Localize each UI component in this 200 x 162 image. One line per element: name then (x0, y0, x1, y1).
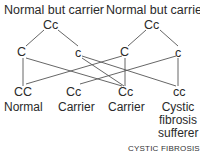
parent-1-allele-dominant: C (17, 46, 26, 59)
parent-1-allele-recessive: c (75, 47, 81, 60)
child-4-genotype: cc (173, 86, 186, 99)
child-4-label-line-2: fibrosis (158, 114, 198, 126)
parent-2-allele-recessive: c (175, 47, 181, 60)
child-4-label-line-3: sufferer (158, 127, 198, 139)
child-3-genotype: Cc (118, 86, 133, 99)
child-2-label: Carrier (58, 101, 95, 113)
child-1-genotype: CC (14, 86, 32, 99)
child-4-label-line-1: Cystic (158, 101, 198, 113)
parent-1-genotype: Cc (43, 19, 58, 32)
child-1-label: Normal (4, 101, 43, 113)
parent-2-genotype: Cc (144, 19, 159, 32)
child-2-genotype: Cc (66, 86, 81, 99)
parent-1-label: Normal but carrier (4, 4, 104, 17)
parent-2-allele-dominant: C (120, 46, 129, 59)
parent-2-label: Normal but carrier (106, 4, 200, 17)
figure-caption: CYSTIC FIBROSIS (128, 145, 200, 153)
child-3-label: Carrier (108, 101, 145, 113)
